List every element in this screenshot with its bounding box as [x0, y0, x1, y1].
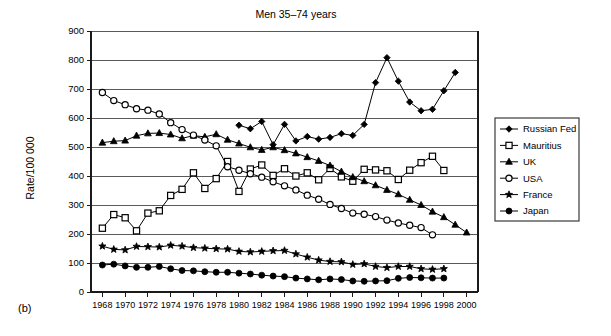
datapoint-usa-1991 — [361, 211, 367, 217]
datapoint-mauritius-1973 — [156, 208, 162, 214]
chart-figure: 0100200300400500600700800900 19681970197… — [0, 0, 611, 336]
legend-label-france: France — [523, 189, 553, 200]
x-tick-label-1978: 1978 — [206, 300, 226, 310]
datapoint-japan-1985 — [293, 275, 299, 281]
y-tick-label-300: 300 — [68, 199, 84, 210]
datapoint-japan-1991 — [361, 278, 367, 284]
datapoint-usa-1981 — [247, 171, 253, 177]
datapoint-japan-1979 — [225, 269, 231, 275]
datapoint-usa-1982 — [259, 174, 265, 180]
datapoint-japan-1973 — [156, 263, 162, 269]
datapoint-usa-1984 — [281, 183, 287, 189]
datapoint-usa-1995 — [407, 222, 413, 228]
datapoint-mauritius-1986 — [304, 170, 310, 176]
panel-label: (b) — [18, 302, 31, 314]
datapoint-usa-1989 — [338, 205, 344, 211]
datapoint-japan-1976 — [190, 268, 196, 274]
datapoint-japan-1969 — [111, 261, 117, 267]
datapoint-usa-1976 — [190, 132, 196, 138]
datapoint-usa-1969 — [111, 98, 117, 104]
line-chart-svg: 0100200300400500600700800900 19681970197… — [0, 0, 611, 336]
datapoint-japan-1992 — [373, 278, 379, 284]
datapoint-usa-1977 — [202, 137, 208, 143]
legend-marker-filled-circle — [506, 208, 512, 214]
datapoint-usa-1994 — [395, 220, 401, 226]
x-tick-label-1970: 1970 — [115, 300, 135, 310]
y-tick-label-800: 800 — [68, 54, 84, 65]
datapoint-usa-1974 — [168, 120, 174, 126]
legend: Russian FedMauritiusUKUSAFranceJapan — [495, 118, 579, 221]
datapoint-mauritius-1991 — [361, 166, 367, 172]
datapoint-mauritius-1976 — [190, 170, 196, 176]
datapoint-usa-1983 — [270, 179, 276, 185]
datapoint-mauritius-1987 — [316, 177, 322, 183]
y-tick-label-100: 100 — [68, 257, 84, 268]
datapoint-japan-1989 — [338, 277, 344, 283]
datapoint-japan-1986 — [304, 276, 310, 282]
datapoint-usa-1988 — [327, 201, 333, 207]
datapoint-japan-1971 — [134, 264, 140, 270]
chart-title: Men 35–74 years — [255, 8, 336, 20]
datapoint-usa-1987 — [316, 196, 322, 202]
datapoint-mauritius-1997 — [429, 153, 435, 159]
datapoint-usa-1971 — [133, 106, 139, 112]
datapoint-japan-1968 — [99, 262, 105, 268]
y-tick-label-500: 500 — [68, 141, 84, 152]
x-tick-label-1982: 1982 — [252, 300, 272, 310]
datapoint-mauritius-1977 — [202, 185, 208, 191]
datapoint-usa-1985 — [293, 187, 299, 193]
y-tick-label-600: 600 — [68, 112, 84, 123]
datapoint-japan-1980 — [236, 270, 242, 276]
datapoint-japan-1990 — [350, 278, 356, 284]
datapoint-japan-1998 — [441, 275, 447, 281]
legend-label-mauritius: Mauritius — [523, 140, 562, 151]
datapoint-japan-1997 — [429, 275, 435, 281]
datapoint-japan-1994 — [395, 275, 401, 281]
datapoint-japan-1974 — [168, 266, 174, 272]
datapoint-japan-1981 — [247, 271, 253, 277]
datapoint-usa-1970 — [122, 102, 128, 108]
datapoint-usa-1993 — [384, 217, 390, 223]
y-axis-title: Rate/100 000 — [24, 136, 36, 199]
x-tick-label-1974: 1974 — [161, 300, 181, 310]
datapoint-mauritius-1983 — [270, 172, 276, 178]
datapoint-japan-1983 — [270, 273, 276, 279]
y-tick-label-200: 200 — [68, 228, 84, 239]
datapoint-mauritius-1982 — [259, 162, 265, 168]
datapoint-mauritius-1998 — [441, 167, 447, 173]
datapoint-usa-1996 — [418, 225, 424, 231]
x-tick-label-1980: 1980 — [229, 300, 249, 310]
datapoint-usa-1992 — [372, 214, 378, 220]
datapoint-mauritius-1992 — [372, 167, 378, 173]
y-tick-label-700: 700 — [68, 83, 84, 94]
x-tick-label-1972: 1972 — [138, 300, 158, 310]
datapoint-japan-1975 — [179, 268, 185, 274]
datapoint-mauritius-1978 — [213, 176, 219, 182]
legend-label-uk: UK — [523, 156, 537, 167]
legend-marker-open-square — [506, 142, 512, 148]
datapoint-japan-1984 — [282, 274, 288, 280]
datapoint-mauritius-1980 — [236, 188, 242, 194]
x-tick-label-1990: 1990 — [343, 300, 363, 310]
y-tick-label-900: 900 — [68, 25, 84, 36]
datapoint-usa-1973 — [156, 111, 162, 117]
datapoint-usa-1990 — [350, 210, 356, 216]
legend-marker-open-circle — [506, 175, 512, 181]
datapoint-mauritius-1996 — [418, 160, 424, 166]
datapoint-mauritius-1975 — [179, 186, 185, 192]
x-tick-label-1988: 1988 — [320, 300, 340, 310]
datapoint-japan-1996 — [418, 275, 424, 281]
datapoint-mauritius-1969 — [111, 211, 117, 217]
datapoint-japan-1995 — [407, 275, 413, 281]
x-tick-label-1976: 1976 — [183, 300, 203, 310]
y-tick-label-0: 0 — [79, 286, 84, 297]
x-tick-label-1984: 1984 — [274, 300, 294, 310]
x-tick-label-1968: 1968 — [92, 300, 112, 310]
datapoint-mauritius-1994 — [395, 176, 401, 182]
datapoint-usa-1979 — [224, 164, 230, 170]
datapoint-mauritius-1972 — [145, 210, 151, 216]
datapoint-mauritius-1985 — [293, 173, 299, 179]
datapoint-japan-1972 — [145, 264, 151, 270]
datapoint-usa-1986 — [304, 192, 310, 198]
datapoint-japan-1982 — [259, 272, 265, 278]
